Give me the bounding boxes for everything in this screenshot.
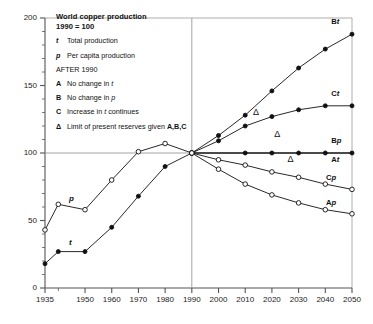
data-point-Ct	[217, 139, 221, 143]
data-point-p	[163, 141, 168, 146]
annotation-delta-At: Δ	[288, 154, 294, 164]
data-point-p	[136, 149, 141, 154]
y-tick-label: 100	[11, 149, 37, 157]
data-point-Ap	[323, 207, 328, 212]
legend-text-A: No change in t	[67, 80, 206, 87]
delta-icon: Δ	[56, 123, 67, 130]
curve-label-Bt: Bt	[331, 18, 339, 26]
data-point-Ap	[350, 212, 355, 217]
legend-key-B: B	[56, 94, 67, 101]
y-tick-label: 50	[11, 217, 37, 225]
data-point-t	[110, 225, 114, 229]
curve-label-suffix: t	[337, 17, 340, 26]
y-tick-label: 0	[11, 284, 37, 292]
data-point-Bt	[297, 66, 301, 70]
legend-entry-t: t Total production	[56, 37, 206, 44]
legend-key-A: A	[56, 80, 67, 87]
series-line-p	[45, 144, 192, 230]
legend-title: World copper production 1990 = 100	[56, 12, 206, 31]
data-point-t	[136, 194, 140, 198]
legend-entry-C: C Increase in t continues	[56, 108, 206, 115]
curve-label-Cp: Cp	[326, 174, 336, 182]
legend-title-line1: World copper production	[56, 12, 147, 21]
x-tick-label: 1935	[28, 296, 62, 304]
legend-text-C: Increase in t continues	[67, 108, 206, 115]
data-point-t	[43, 262, 47, 266]
y-tick-label: 150	[11, 82, 37, 90]
chart-legend: World copper production 1990 = 100 t Tot…	[56, 12, 206, 137]
legend-entry-A: A No change in t	[56, 80, 206, 87]
data-point-p	[43, 228, 48, 233]
y-tick-label: 200	[11, 14, 37, 22]
data-point-p	[109, 178, 114, 183]
data-point-Ct	[243, 124, 247, 128]
data-point-Bt	[270, 89, 274, 93]
curve-label-suffix: p	[331, 173, 336, 182]
data-point-Cp	[323, 182, 328, 187]
data-point-Ct	[297, 108, 301, 112]
data-point-Cp	[270, 170, 275, 175]
curve-label-Bp: Bp	[331, 137, 341, 145]
data-point-Ct	[323, 104, 327, 108]
data-point-Ap	[190, 151, 195, 156]
inline-label-p: p	[69, 195, 74, 203]
legend-entry-B: B No change in p	[56, 94, 206, 101]
annotation-delta-Ct: Δ	[274, 129, 280, 139]
data-point-Ap	[270, 193, 275, 198]
data-point-t	[56, 250, 60, 254]
legend-key-p: p	[56, 52, 67, 59]
curve-label-Ct: Ct	[331, 90, 339, 98]
data-point-t	[163, 165, 167, 169]
series-line-t	[45, 153, 192, 264]
data-point-Cp	[216, 158, 221, 163]
data-point-Ct	[350, 104, 354, 108]
data-point-Cp	[243, 163, 248, 168]
legend-entry-reserves: Δ Limit of present reserves given A,B,C	[56, 123, 206, 130]
curve-label-At: At	[331, 156, 339, 164]
annotation-delta-Bt: Δ	[253, 107, 259, 117]
data-point-Ct	[270, 115, 274, 119]
legend-text-p: Per capita production	[67, 52, 206, 59]
legend-entry-p: p Per capita production	[56, 52, 206, 59]
curve-label-suffix: t	[337, 155, 340, 164]
legend-text-reserves: Limit of present reserves given A,B,C	[67, 123, 206, 130]
curve-label-suffix: t	[337, 89, 340, 98]
series-line-Ct	[192, 106, 352, 153]
data-point-Ap	[243, 182, 248, 187]
data-point-Bt	[323, 47, 327, 51]
data-point-Cp	[350, 187, 355, 192]
inline-label-t: t	[69, 239, 72, 247]
legend-key-C: C	[56, 108, 67, 115]
curve-label-Ap: Ap	[326, 199, 336, 207]
data-point-p	[56, 202, 61, 207]
legend-text-t: Total production	[67, 37, 206, 44]
data-point-Bt	[217, 134, 221, 138]
data-point-p	[83, 207, 88, 212]
data-point-Cp	[296, 175, 301, 180]
curve-label-suffix: p	[331, 198, 336, 207]
data-point-Ap	[296, 201, 301, 206]
legend-title-line2: 1990 = 100	[56, 22, 94, 31]
data-point-Bt	[350, 32, 354, 36]
legend-key-t: t	[56, 37, 67, 44]
legend-after-heading: AFTER 1990	[56, 66, 206, 73]
chart-figure: ΔΔΔ World copper production 1990 = 100 t…	[0, 0, 373, 324]
series-line-Bt	[192, 34, 352, 153]
legend-text-B: No change in p	[67, 94, 206, 101]
x-tick-label: 2050	[335, 296, 369, 304]
data-point-t	[83, 250, 87, 254]
data-point-Bt	[243, 113, 247, 117]
curve-label-suffix: p	[337, 136, 342, 145]
data-point-Ap	[216, 167, 221, 172]
